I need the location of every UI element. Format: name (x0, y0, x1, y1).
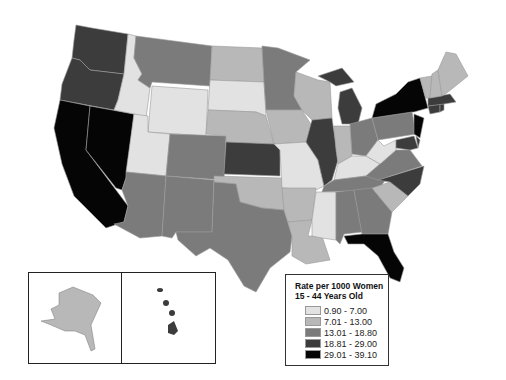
legend-label: 18.81 - 29.00 (324, 339, 377, 349)
state-ms (312, 192, 336, 240)
state-co (166, 134, 226, 180)
state-ia (266, 110, 312, 144)
legend-item: 29.01 - 39.10 (295, 349, 388, 360)
hawaii-inset (121, 272, 216, 364)
legend-item: 0.90 - 7.00 (295, 305, 388, 316)
alaska-shape (29, 273, 121, 363)
state-nm (162, 176, 214, 238)
legend-title: Rate per 1000 Women 15 - 44 Years Old (295, 281, 388, 301)
state-nj (414, 114, 424, 138)
legend-item: 13.01 - 18.80 (295, 327, 388, 338)
legend-item: 7.01 - 13.00 (295, 316, 388, 327)
legend-swatch (305, 350, 321, 359)
map-legend: Rate per 1000 Women 15 - 44 Years Old 0.… (285, 274, 389, 366)
state-mt (134, 36, 212, 88)
state-ri (440, 104, 444, 112)
state-md (396, 136, 418, 150)
state-ks (224, 142, 280, 176)
legend-label: 0.90 - 7.00 (324, 306, 367, 316)
state-mi-lower (338, 88, 362, 124)
state-ny (372, 78, 428, 118)
legend-label: 29.01 - 39.10 (324, 350, 377, 360)
legend-swatch (305, 328, 321, 337)
legend-label: 13.01 - 18.80 (324, 328, 377, 338)
legend-swatch (305, 317, 321, 326)
legend-swatch (305, 306, 321, 315)
alaska-inset (28, 272, 122, 364)
hawaii-shape (122, 273, 215, 363)
legend-label: 7.01 - 13.00 (324, 317, 372, 327)
legend-swatch (305, 339, 321, 348)
state-wy (148, 86, 208, 136)
state-me (438, 52, 468, 96)
state-ar (282, 188, 316, 222)
legend-item: 18.81 - 29.00 (295, 338, 388, 349)
state-nd (210, 46, 264, 82)
